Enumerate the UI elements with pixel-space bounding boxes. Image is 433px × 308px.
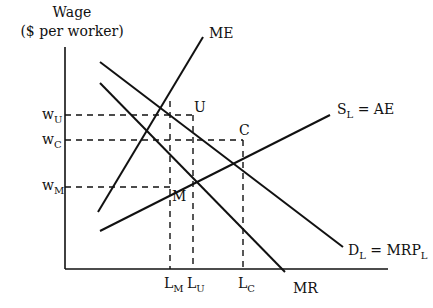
- y-axis-subtitle: ($ per worker): [20, 23, 123, 39]
- wage-wU-label: wU: [42, 106, 62, 125]
- wage-wM-label: wM: [42, 177, 64, 196]
- mr-curve: [100, 83, 285, 272]
- qty-LU-label: LU: [187, 275, 205, 294]
- y-axis-title: Wage: [53, 4, 92, 20]
- wage-wC-label: wC: [42, 131, 62, 150]
- me-label: ME: [209, 25, 234, 41]
- me-curve: [98, 37, 203, 212]
- guide-lines: [65, 101, 243, 269]
- point-m-label: M: [172, 188, 186, 204]
- qty-LM-label: LM: [164, 275, 184, 294]
- supply-label: SL = AE: [337, 101, 394, 120]
- demand-label: DL = MRPL: [348, 242, 428, 261]
- demand-mrp-curve: [100, 62, 343, 247]
- supply-ae-curve: [100, 115, 330, 231]
- qty-LC-label: LC: [238, 275, 255, 294]
- labor-market-diagram: Wage ($ per worker) ME MR SL = AE DL = M…: [0, 0, 433, 308]
- point-u-label: U: [194, 99, 206, 115]
- mr-label: MR: [293, 280, 318, 296]
- point-c-label: C: [239, 122, 250, 138]
